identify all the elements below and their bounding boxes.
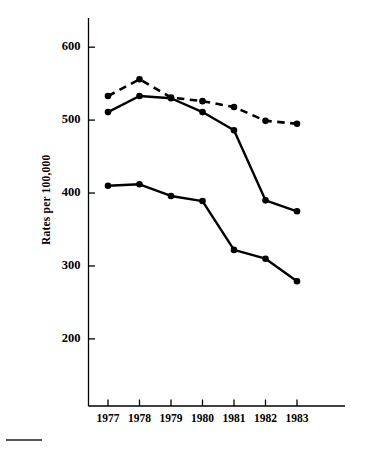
data-point-lower-solid-1979 — [168, 193, 175, 200]
data-point-upper-dashed-1981 — [231, 104, 238, 111]
data-point-upper-dashed-1977 — [105, 93, 112, 100]
data-point-upper-dashed-1983 — [294, 120, 301, 127]
y-tick-label: 400 — [41, 185, 81, 200]
data-point-middle-solid-1981 — [231, 127, 238, 134]
data-point-lower-solid-1978 — [136, 181, 143, 188]
data-point-upper-dashed-1980 — [199, 98, 206, 105]
data-point-lower-solid-1983 — [294, 278, 301, 285]
y-tick-label: 300 — [41, 258, 81, 273]
data-point-lower-solid-1981 — [231, 247, 238, 254]
data-point-middle-solid-1982 — [262, 197, 269, 204]
data-point-lower-solid-1982 — [262, 255, 269, 262]
data-point-lower-solid-1977 — [105, 182, 112, 189]
data-point-middle-solid-1983 — [294, 208, 301, 215]
data-point-middle-solid-1977 — [105, 109, 112, 116]
data-point-middle-solid-1980 — [199, 109, 206, 116]
chart-figure: Rates per 100,000 200300400500600 197719… — [0, 0, 371, 451]
x-tick-label: 1983 — [277, 412, 317, 424]
line-chart-plot — [0, 0, 371, 451]
data-point-middle-solid-1978 — [136, 93, 143, 100]
chart-series — [105, 76, 301, 285]
data-point-lower-solid-1980 — [199, 198, 206, 205]
y-tick-label: 200 — [41, 331, 81, 346]
data-point-upper-dashed-1978 — [136, 76, 143, 83]
data-point-upper-dashed-1982 — [262, 118, 269, 125]
footnote-rule — [6, 439, 42, 441]
y-tick-label: 500 — [41, 112, 81, 127]
y-tick-label: 600 — [41, 39, 81, 54]
chart-axes — [89, 18, 346, 406]
data-point-middle-solid-1979 — [168, 95, 175, 102]
